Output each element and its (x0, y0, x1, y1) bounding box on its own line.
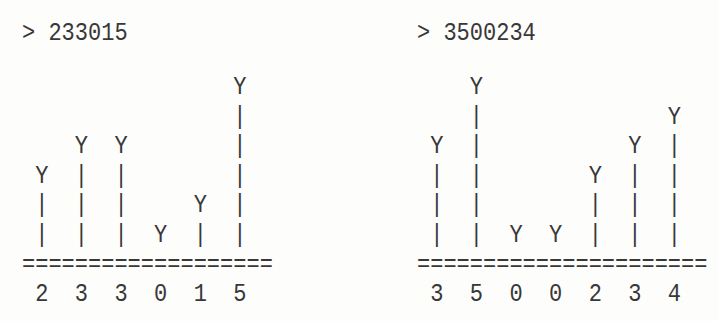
chart-body: Y | Y Y | Y | | | Y | | | | | | | | | Y … (417, 73, 707, 309)
digit-labels-row: 3 5 0 0 2 3 4 (417, 277, 707, 312)
input-echo-line: > 233015 (22, 17, 273, 50)
input-echo-line: > 3500234 (417, 17, 707, 50)
ascii-bar-chart-right: > 3500234 Y | Y Y | Y | | | Y | | | | | … (417, 20, 707, 309)
digit-labels-row: 2 3 3 0 1 5 (22, 277, 273, 312)
ascii-bar-chart-left: > 233015 Y | Y Y | Y | | | | | | Y | | |… (22, 20, 273, 309)
chart-body: Y | Y Y | Y | | | | | | Y | | | | Y | | … (22, 73, 273, 309)
